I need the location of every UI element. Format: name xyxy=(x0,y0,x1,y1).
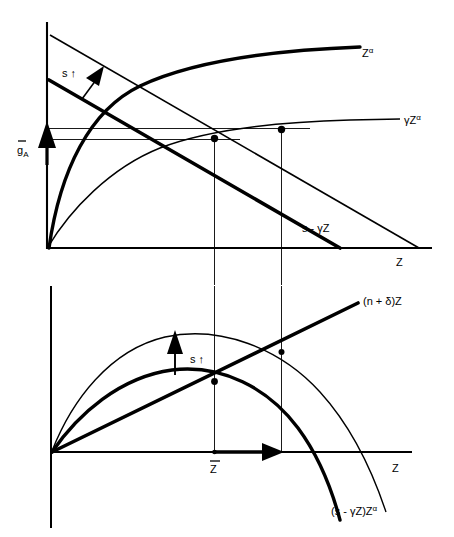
top-s-shift-arrow xyxy=(82,66,104,99)
svg-text:gA: gA xyxy=(17,144,29,159)
bottom-n-plus-delta-z-label: (n + δ)Z xyxy=(363,295,402,307)
bottom-hump-curve-original xyxy=(52,334,386,512)
figure-container: Zα γZα s - γZ s ↑ gA Z xyxy=(0,0,454,537)
top-s-minus-gamma-z-original-line xyxy=(50,35,419,248)
bottom-s-shift-label: s ↑ xyxy=(190,353,204,365)
top-s-shift-label: s ↑ xyxy=(62,67,76,79)
top-old-equilibrium-dot xyxy=(278,126,285,133)
top-gamma-z-alpha-label: γZα xyxy=(404,113,421,126)
bottom-panel: (n + δ)Z (s - γZ)Zα s ↑ Z Z xyxy=(50,286,412,528)
top-g-bar-a-arrow xyxy=(38,121,56,165)
top-x-axis-label: Z xyxy=(396,256,403,268)
bottom-new-steady-state-dot xyxy=(279,349,285,355)
bottom-x-axis-label: Z xyxy=(392,462,399,474)
bottom-z-bar-label: Z xyxy=(210,461,220,475)
svg-text:Z: Z xyxy=(210,463,217,475)
top-g-bar-a-label: gA xyxy=(17,141,29,159)
bottom-hump-curve-shifted xyxy=(52,369,340,520)
bottom-initial-steady-state-dot xyxy=(211,378,218,385)
top-z-alpha-label: Zα xyxy=(362,46,374,59)
top-new-equilibrium-dot xyxy=(211,135,218,142)
top-s-minus-gamma-z-label: s - γZ xyxy=(302,222,330,234)
bottom-s-gamma-z-z-alpha-label: (s - γZ)Zα xyxy=(331,504,378,517)
bottom-transition-arrow xyxy=(215,443,284,461)
top-s-minus-gamma-z-shifted-line xyxy=(49,80,340,248)
top-panel: Zα γZα s - γZ s ↑ gA Z xyxy=(17,22,432,285)
figure-svg: Zα γZα s - γZ s ↑ gA Z xyxy=(0,0,454,537)
